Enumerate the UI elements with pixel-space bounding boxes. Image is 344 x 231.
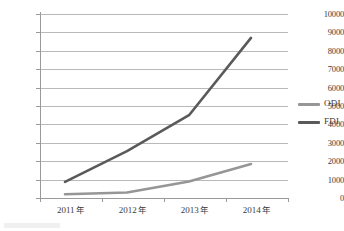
legend-label: ODI [324, 97, 341, 110]
series-lines [0, 0, 344, 231]
series-line-fdi [65, 38, 251, 182]
scan-artifact [4, 223, 60, 228]
legend-swatch-icon [298, 103, 320, 106]
legend-item-fdi[interactable]: FDI [296, 114, 344, 132]
line-chart: 1000090008000700060005000400030002000100… [0, 0, 344, 231]
legend-label: FDI [324, 115, 339, 128]
legend: ODIFDI [296, 96, 344, 132]
legend-item-odi[interactable]: ODI [296, 96, 344, 114]
legend-swatch-icon [298, 121, 320, 124]
